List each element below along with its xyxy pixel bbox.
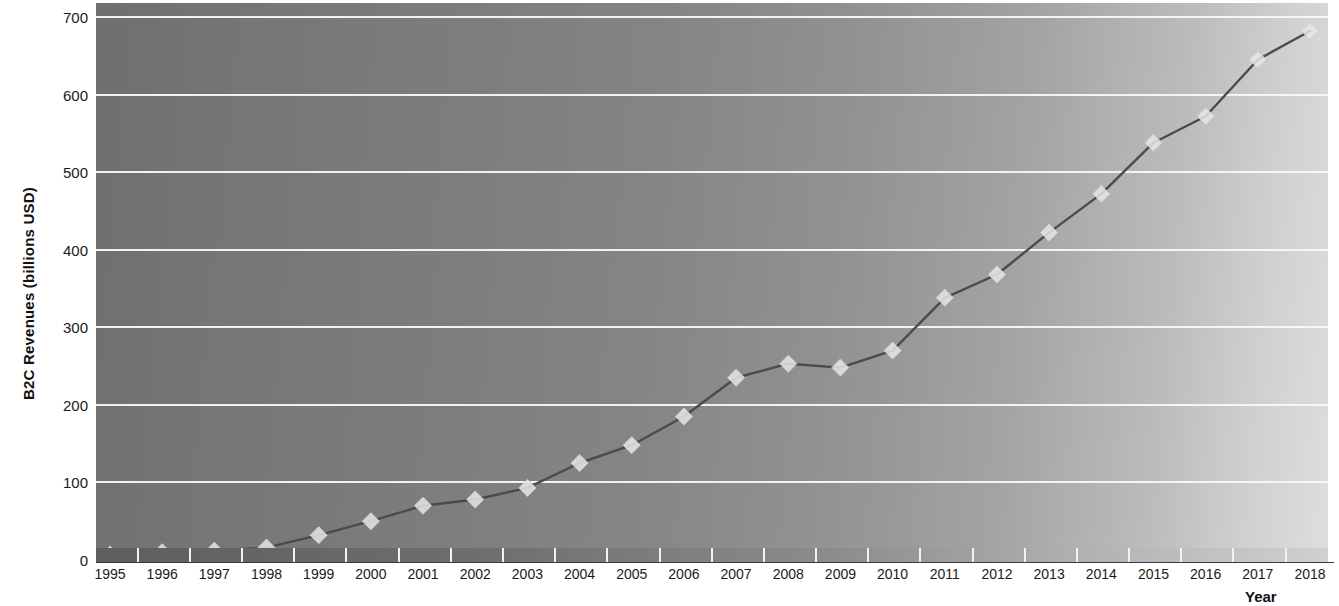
x-tick-label: 2006 [654, 566, 714, 582]
x-axis-tick [502, 548, 504, 562]
x-tick-label: 2012 [967, 566, 1027, 582]
data-point-marker [571, 455, 588, 472]
data-point-marker [675, 408, 692, 425]
x-tick-label: 2015 [1123, 566, 1183, 582]
x-tick-label: 2011 [915, 566, 975, 582]
x-axis-tick [1128, 548, 1130, 562]
x-axis-tick [972, 548, 974, 562]
x-axis-tick [867, 548, 869, 562]
y-tick-label: 700 [36, 9, 88, 26]
x-axis-tick [1285, 548, 1287, 562]
x-tick-label: 1996 [132, 566, 192, 582]
data-point-marker [780, 355, 797, 372]
x-axis-tick [919, 548, 921, 562]
data-point-marker [415, 497, 432, 514]
y-tick-label: 500 [36, 164, 88, 181]
data-line-series [96, 3, 1328, 560]
x-axis-tick [345, 548, 347, 562]
x-tick-label: 2017 [1228, 566, 1288, 582]
x-tick-label: 2018 [1280, 566, 1339, 582]
x-axis-tick [137, 548, 139, 562]
y-tick-label: 300 [36, 319, 88, 336]
x-axis-tick [189, 548, 191, 562]
y-tick-label: 600 [36, 86, 88, 103]
x-axis-tick [659, 548, 661, 562]
data-point-marker [623, 437, 640, 454]
x-axis-tick [1232, 548, 1234, 562]
y-axis-title: B2C Revenues (billions USD) [20, 84, 37, 504]
x-tick-label: 1999 [289, 566, 349, 582]
x-axis-tick [763, 548, 765, 562]
data-point-marker [832, 359, 849, 376]
x-axis-tick [815, 548, 817, 562]
data-point-marker [519, 479, 536, 496]
y-tick-label: 100 [36, 474, 88, 491]
series-line-b2c-revenues [110, 31, 1310, 555]
x-tick-label: 1995 [80, 566, 140, 582]
x-axis-tick [450, 548, 452, 562]
x-tick-label: 2000 [341, 566, 401, 582]
data-point-marker [728, 369, 745, 386]
x-axis-title: Year [1245, 588, 1277, 605]
x-tick-label: 1998 [237, 566, 297, 582]
x-tick-label: 2003 [497, 566, 557, 582]
chart-container: B2C Revenues (billions USD) 700600500400… [0, 0, 1339, 606]
x-axis-tick [1180, 548, 1182, 562]
x-tick-label: 2010 [863, 566, 923, 582]
x-axis-band [96, 548, 1328, 562]
x-tick-label: 2004 [550, 566, 610, 582]
data-point-marker [467, 491, 484, 508]
data-point-marker [1302, 23, 1319, 40]
x-axis-tick [1024, 548, 1026, 562]
x-axis-tick [606, 548, 608, 562]
x-axis-tick [554, 548, 556, 562]
x-tick-label: 1997 [184, 566, 244, 582]
series-markers [102, 23, 1319, 564]
y-tick-label: 200 [36, 396, 88, 413]
x-axis-tick-labels: 1995199619971998199920002001200220032004… [0, 566, 1339, 590]
data-point-marker [362, 513, 379, 530]
data-point-marker [310, 527, 327, 544]
x-tick-label: 2016 [1176, 566, 1236, 582]
x-axis-rule [96, 562, 1334, 563]
x-tick-label: 2005 [602, 566, 662, 582]
plot-area [96, 3, 1328, 560]
x-tick-label: 2001 [393, 566, 453, 582]
x-tick-label: 2008 [758, 566, 818, 582]
x-tick-label: 2007 [706, 566, 766, 582]
x-axis-tick [293, 548, 295, 562]
y-axis-tick-labels: 7006005004003002001000 [36, 0, 88, 606]
x-axis-tick [1076, 548, 1078, 562]
x-tick-label: 2002 [445, 566, 505, 582]
x-tick-label: 2009 [810, 566, 870, 582]
y-tick-label: 400 [36, 241, 88, 258]
x-axis-tick [711, 548, 713, 562]
x-axis-tick [398, 548, 400, 562]
x-tick-label: 2014 [1071, 566, 1131, 582]
x-tick-label: 2013 [1019, 566, 1079, 582]
x-axis-tick [241, 548, 243, 562]
